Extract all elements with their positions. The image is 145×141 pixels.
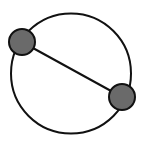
circle-diagram bbox=[0, 0, 145, 141]
node-left bbox=[9, 29, 35, 55]
chord-edge bbox=[22, 42, 122, 97]
node-right bbox=[109, 84, 135, 110]
